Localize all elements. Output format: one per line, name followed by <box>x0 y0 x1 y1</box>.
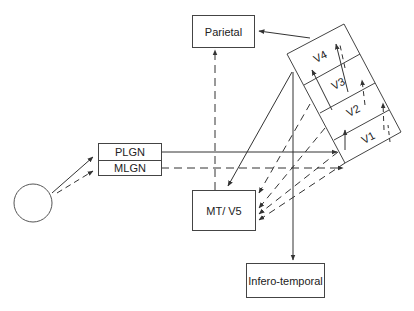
lgn-box: PLGN MLGN <box>98 143 162 176</box>
edge-cortex-mt <box>228 72 292 186</box>
mt-v5-box: MT/ V5 <box>192 190 256 231</box>
edge-v1-mt-b <box>259 163 345 220</box>
infero-temporal-box: Infero-temporal <box>246 263 325 298</box>
edge-v1-mt-a <box>259 152 338 214</box>
infero-temporal-label: Infero-temporal <box>248 275 323 287</box>
retina-circle <box>14 184 52 222</box>
edge-v4-parietal <box>259 31 310 38</box>
parietal-box: Parietal <box>192 15 255 48</box>
parietal-label: Parietal <box>205 26 242 38</box>
mt-v5-label: MT/ V5 <box>206 205 241 217</box>
edge-retina-mlgn <box>57 171 93 193</box>
plgn-label: PLGN <box>99 144 161 160</box>
visual-cortex-box: V4 V3 V2 V1 <box>287 24 401 163</box>
mlgn-label: MLGN <box>99 160 161 176</box>
